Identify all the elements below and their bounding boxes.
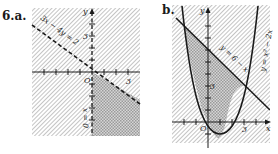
- tick-label-y-b: 3: [210, 82, 215, 91]
- tick-label-x-b: 3: [242, 125, 247, 134]
- tick-label-x-a: 3: [126, 77, 131, 86]
- axis-y-label-b: y: [199, 6, 205, 15]
- tick-label-y-a: 3: [83, 32, 88, 41]
- axis-x-label-b: x: [266, 124, 271, 133]
- vertical-boundary-label-a: x = 0: [81, 108, 90, 128]
- axis-y-label-a: y: [82, 7, 88, 16]
- origin-label-b: O: [200, 124, 207, 133]
- graphs: y 3 3 O 3x − 4y = 2 x = 0 y x O 3 3 y = …: [0, 0, 278, 154]
- origin-label-a: O: [84, 76, 91, 85]
